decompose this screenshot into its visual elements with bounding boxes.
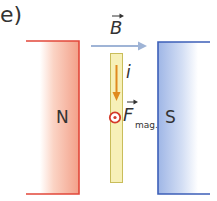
magnetic-force-diagram: e)	[0, 0, 217, 201]
field-label: B	[110, 17, 122, 38]
force-subscript: mag.	[135, 120, 158, 130]
force-out-of-page-icon	[110, 112, 120, 122]
south-pole-label: S	[165, 107, 176, 127]
diagram-graphics	[0, 0, 217, 201]
force-label: F	[123, 104, 133, 125]
north-pole-label: N	[56, 107, 69, 127]
north-magnet	[26, 41, 79, 194]
current-label: i	[126, 62, 131, 82]
